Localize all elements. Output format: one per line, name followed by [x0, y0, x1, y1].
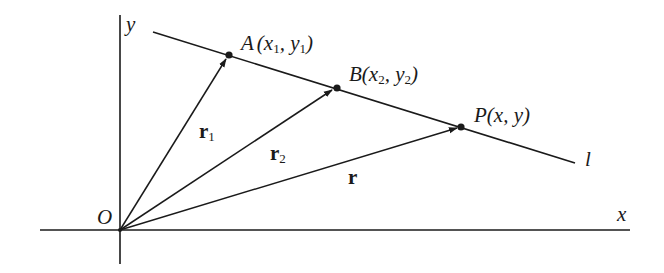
origin-label: O: [97, 207, 112, 228]
x-axis-label: x: [617, 204, 626, 225]
vector-r1-name: r: [199, 119, 208, 143]
point-b-coords-open: (x: [362, 62, 378, 86]
point-b-coords-mid: , y: [385, 62, 405, 86]
line-l: [153, 32, 575, 163]
line-l-label: l: [585, 149, 591, 170]
vector-r2-label: r2: [270, 143, 286, 165]
point-a: [225, 51, 232, 58]
point-b-coords-close: ): [411, 62, 418, 86]
vector-r: [120, 128, 457, 230]
point-a-coords-mid: , y: [280, 31, 300, 55]
point-a-name: A: [241, 31, 254, 55]
vector-r-name: r: [348, 165, 357, 189]
vector-r1: [120, 59, 226, 230]
point-a-coords-close: ): [306, 31, 313, 55]
diagram-canvas: [0, 0, 664, 273]
vector-r2-name: r: [270, 141, 279, 165]
point-a-label: A(x1, y1): [241, 33, 313, 55]
point-p-name: P: [474, 103, 487, 127]
vector-r-label: r: [348, 167, 357, 188]
vector-r1-subscript: 1: [208, 129, 215, 144]
point-p-label: P(x, y): [474, 105, 530, 126]
point-b-label: B(x2, y2): [349, 64, 418, 86]
vector-r1-label: r1: [199, 121, 215, 143]
origin-point: [118, 228, 122, 232]
point-p: [457, 123, 464, 130]
y-axis-label: y: [126, 14, 135, 35]
point-p-coords: (x, y): [487, 103, 530, 127]
point-a-coords-open: (x: [257, 31, 273, 55]
vector-r2: [120, 90, 332, 230]
point-b-name: B: [349, 62, 362, 86]
point-b: [333, 84, 340, 91]
vector-r2-subscript: 2: [279, 151, 286, 166]
